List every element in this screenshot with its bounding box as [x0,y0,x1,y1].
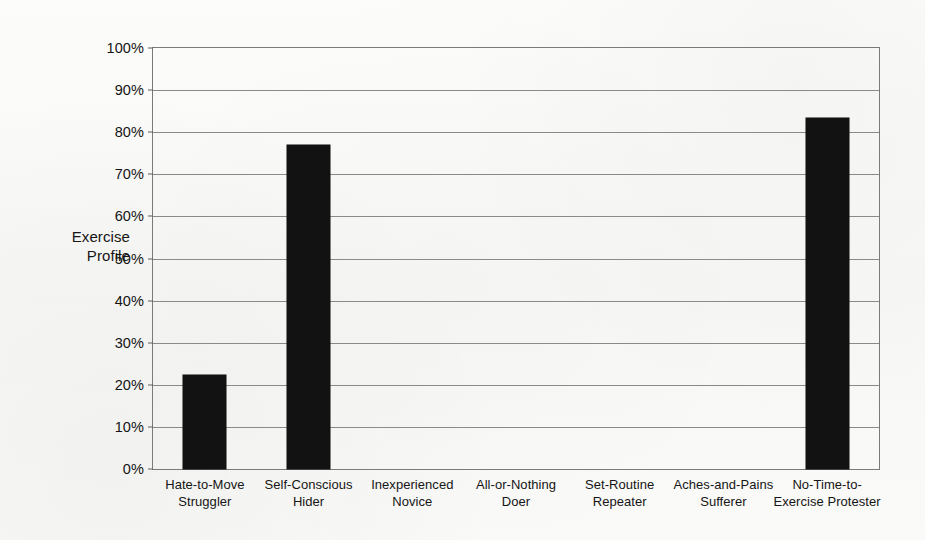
y-axis-tick-label: 90% [115,83,153,98]
y-axis-tick-label: 30% [115,335,153,350]
gridline [153,132,879,133]
y-axis-tick-label: 100% [107,41,154,56]
y-axis-tick-label: 60% [115,209,153,224]
gridline [153,301,879,302]
x-axis-tick-label: No-Time-to- Exercise Protester [765,477,889,510]
gridline [153,343,879,344]
gridline [153,427,879,428]
y-axis-tick-label: 20% [115,378,153,393]
gridline [153,385,879,386]
y-axis-tick-label: 50% [115,251,153,266]
y-axis-tick-label: 70% [115,167,153,182]
plot-area: 0%10%20%30%40%50%60%70%80%90%100% Hate-t… [152,47,880,470]
gridline [153,216,879,217]
gridline [153,174,879,175]
bar [287,145,330,469]
gridline [153,259,879,260]
y-axis-tick-label: 10% [115,420,153,435]
y-axis-tick-label: 40% [115,293,153,308]
gridline [153,90,879,91]
y-axis-title: Exercise Profile [18,227,130,265]
y-axis-tick-label: 80% [115,125,153,140]
y-axis-tick-label: 0% [123,462,153,477]
bar [806,118,849,470]
bar [183,375,226,469]
